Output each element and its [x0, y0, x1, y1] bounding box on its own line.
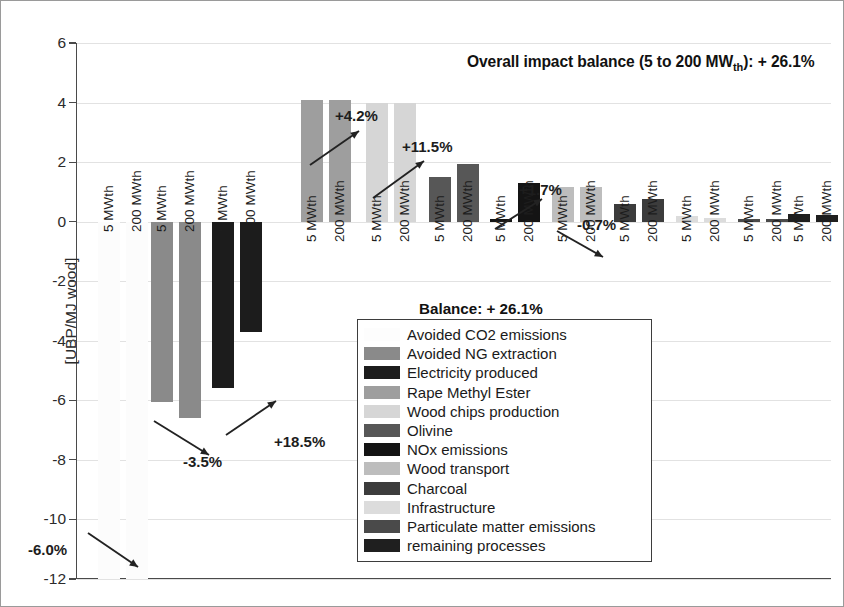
- bar-label-5mwth: 5 MWth: [154, 185, 169, 232]
- y-tick: [69, 162, 76, 163]
- y-tick: [69, 459, 76, 460]
- y-tick-label: -10: [44, 510, 66, 528]
- bar-label-5mwth: 5 MWth: [791, 195, 806, 242]
- legend-swatch: [364, 462, 400, 475]
- legend-label: Infrastructure: [407, 499, 495, 516]
- legend-swatch: [364, 520, 400, 533]
- y-tick: [69, 578, 76, 579]
- percent-change-label: +1.7%: [519, 181, 562, 198]
- legend-label: Wood chips production: [407, 403, 559, 420]
- legend-swatch: [364, 424, 400, 437]
- bar-label-200mwth: 200 MWth: [397, 180, 412, 242]
- legend-label: Olivine: [407, 422, 453, 439]
- balance-label: Balance: + 26.1%: [419, 300, 543, 317]
- gridline: [77, 103, 831, 104]
- y-tick-label: 0: [57, 213, 66, 231]
- bar-label-200mwth: 200 MWth: [819, 180, 834, 242]
- bar-label-200mwth: 200 MWth: [460, 180, 475, 242]
- bar: [240, 222, 262, 332]
- legend-swatch: [364, 501, 400, 514]
- legend-item[interactable]: remaining processes: [364, 536, 643, 555]
- legend-item[interactable]: Avoided NG extraction: [364, 344, 643, 363]
- legend-label: Wood transport: [407, 460, 509, 477]
- bar-label-5mwth: 5 MWth: [432, 195, 447, 242]
- y-tick-label: -8: [52, 451, 66, 469]
- y-tick-label: 4: [57, 94, 66, 112]
- legend-label: Electricity produced: [407, 364, 538, 381]
- legend-swatch: [364, 443, 400, 456]
- y-tick: [69, 400, 76, 401]
- legend-swatch: [364, 405, 400, 418]
- y-tick-label: -2: [52, 272, 66, 290]
- bar-label-5mwth: 5 MWth: [493, 195, 508, 242]
- legend-label: remaining processes: [407, 537, 545, 554]
- y-tick: [69, 221, 76, 222]
- y-tick-label: -4: [52, 332, 66, 350]
- legend-item[interactable]: Rape Methyl Ester: [364, 383, 643, 402]
- legend-swatch: [364, 347, 400, 360]
- legend-swatch: [364, 328, 400, 341]
- bar-label-200mwth: 200 MWth: [707, 180, 722, 242]
- percent-change-label: +18.5%: [274, 433, 325, 450]
- bar-label-5mwth: 5 MWth: [101, 185, 116, 232]
- legend-label: Rape Methyl Ester: [407, 384, 530, 401]
- legend-item[interactable]: Wood chips production: [364, 402, 643, 421]
- bar: [126, 222, 148, 579]
- bar-label-200mwth: 200 MWth: [129, 170, 144, 232]
- y-tick-label: 6: [57, 34, 66, 52]
- percent-change-label: -3.5%: [183, 453, 222, 470]
- legend-label: Particulate matter emissions: [407, 518, 595, 535]
- legend-item[interactable]: Wood transport: [364, 459, 643, 478]
- y-tick: [69, 42, 76, 43]
- bar-label-200mwth: 200 MWth: [332, 180, 347, 242]
- legend-item[interactable]: Charcoal: [364, 479, 643, 498]
- bar-label-200mwth: 200 MWth: [182, 170, 197, 232]
- bar-label-5mwth: 5 MWth: [215, 185, 230, 232]
- legend-item[interactable]: Electricity produced: [364, 363, 643, 382]
- y-tick: [69, 102, 76, 103]
- legend-item[interactable]: NOx emissions: [364, 440, 643, 459]
- legend-label: Avoided NG extraction: [407, 345, 557, 362]
- bar: [98, 222, 120, 579]
- legend-item[interactable]: Avoided CO2 emissions: [364, 325, 643, 344]
- bar-label-5mwth: 5 MWth: [304, 195, 319, 242]
- legend-item[interactable]: Infrastructure: [364, 498, 643, 517]
- legend-label: NOx emissions: [407, 441, 508, 458]
- bar-label-5mwth: 5 MWth: [555, 195, 570, 242]
- legend-label: Charcoal: [407, 480, 467, 497]
- y-tick-label: -6: [52, 391, 66, 409]
- legend-swatch: [364, 539, 400, 552]
- bar-label-200mwth: 200 MWth: [645, 180, 660, 242]
- bar-label-200mwth: 200 MWth: [243, 170, 258, 232]
- bar-label-5mwth: 5 MWth: [617, 195, 632, 242]
- y-tick: [69, 281, 76, 282]
- percent-change-label: +11.5%: [402, 138, 452, 155]
- gridline: [77, 162, 831, 163]
- y-tick-label: -12: [44, 570, 66, 588]
- gridline: [77, 43, 831, 44]
- legend: Avoided CO2 emissionsAvoided NG extracti…: [357, 319, 652, 562]
- legend-item[interactable]: Particulate matter emissions: [364, 517, 643, 536]
- bar: [179, 222, 201, 419]
- legend-item[interactable]: Olivine: [364, 421, 643, 440]
- legend-swatch: [364, 366, 400, 379]
- chart-frame: Overall impact balance (5 to 200 MWth): …: [0, 0, 844, 607]
- y-tick: [69, 340, 76, 341]
- y-tick: [69, 519, 76, 520]
- y-tick-label: 2: [57, 153, 66, 171]
- bar-label-5mwth: 5 MWth: [741, 195, 756, 242]
- bar: [151, 222, 173, 402]
- bar-label-200mwth: 200 MWth: [769, 180, 784, 242]
- bar-label-5mwth: 5 MWth: [369, 195, 384, 242]
- gridline: [77, 579, 831, 580]
- bar-label-5mwth: 5 MWth: [679, 195, 694, 242]
- legend-label: Avoided CO2 emissions: [407, 326, 567, 343]
- percent-change-label: +4.2%: [335, 107, 378, 124]
- percent-change-label: -6.0%: [28, 541, 67, 558]
- percent-change-label: -0.7%: [577, 216, 616, 233]
- legend-swatch: [364, 482, 400, 495]
- legend-swatch: [364, 386, 400, 399]
- bar: [212, 222, 234, 389]
